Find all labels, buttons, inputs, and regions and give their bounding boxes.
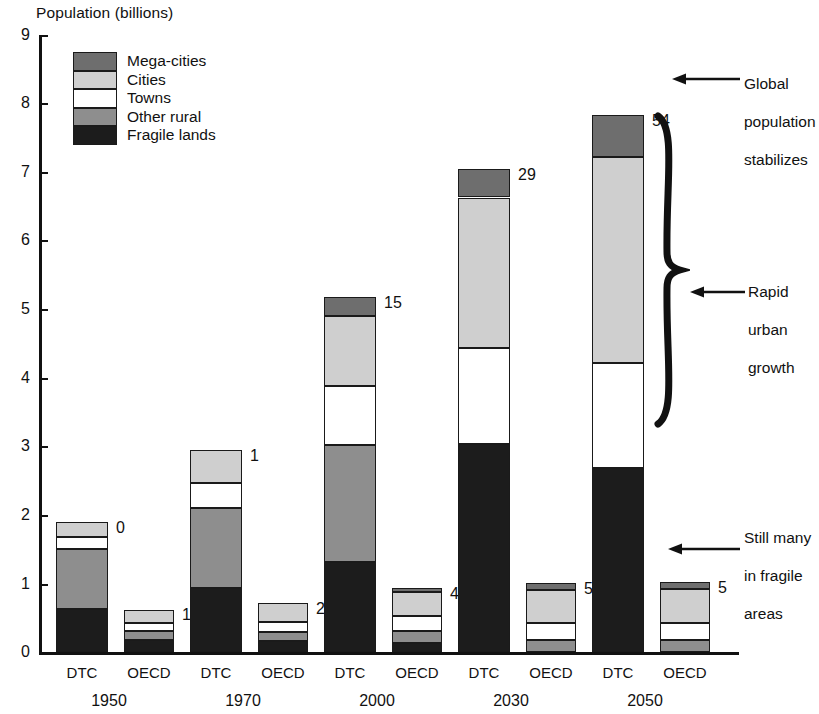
annotation-global-population-stabilizes: Global population stabilizes (744, 55, 816, 188)
annotation-line-3: growth (748, 358, 795, 377)
bar-segment-mega-cities-oecd-2000[interactable] (392, 588, 442, 593)
bar-segment-other-rural-oecd-1970[interactable] (258, 632, 308, 641)
x-label-dtc-1970: DTC (185, 665, 247, 680)
x-label-oecd-1970: OECD (248, 665, 318, 680)
bar-segment-cities-dtc-1950[interactable] (56, 522, 108, 537)
bar-segment-other-rural-dtc-2000[interactable] (324, 445, 376, 562)
arrow-still-many-in-fragile-areas (668, 542, 740, 556)
y-tick-2 (39, 515, 48, 517)
bar-value-oecd-2050: 5 (718, 580, 727, 596)
y-tick-label-1: 1 (0, 576, 30, 592)
bar-segment-cities-oecd-1950[interactable] (124, 610, 174, 624)
annotation-line-2: urban (748, 320, 795, 339)
y-tick-0 (39, 652, 48, 654)
y-tick-6 (39, 240, 48, 242)
bar-segment-fragile-lands-dtc-2030[interactable] (458, 444, 510, 652)
annotation-still-many-in-fragile-areas: Still many in fragile areas (744, 509, 811, 642)
bar-segment-cities-oecd-1970[interactable] (258, 603, 308, 622)
bar-segment-mega-cities-oecd-2030[interactable] (526, 583, 576, 589)
y-tick-8 (39, 103, 48, 105)
bar-segment-other-rural-oecd-2000[interactable] (392, 631, 442, 643)
y-tick-5 (39, 309, 48, 311)
x-group-year-2050: 2050 (600, 693, 690, 709)
bar-segment-towns-oecd-1970[interactable] (258, 622, 308, 632)
y-tick-1 (39, 584, 48, 586)
bar-dtc-1970[interactable] (190, 35, 242, 652)
y-tick-label-3: 3 (0, 438, 30, 454)
y-tick-label-0: 0 (0, 644, 30, 660)
y-tick-7 (39, 172, 48, 174)
annotation-line-1: Global (744, 74, 816, 93)
annotation-line-1: Still many (744, 528, 811, 547)
bar-segment-towns-dtc-1970[interactable] (190, 483, 242, 508)
annotation-line-2: in fragile (744, 566, 811, 585)
x-label-oecd-1950: OECD (114, 665, 184, 680)
y-tick-3 (39, 446, 48, 448)
bar-segment-fragile-lands-oecd-1950[interactable] (124, 640, 174, 652)
bar-segment-towns-dtc-2030[interactable] (458, 348, 510, 444)
y-tick-4 (39, 378, 48, 380)
y-tick-label-2: 2 (0, 507, 30, 523)
bar-segment-towns-dtc-1950[interactable] (56, 537, 108, 549)
curly-brace-rapid-urban-growth (650, 112, 690, 432)
annotation-line-3: stabilizes (744, 150, 816, 169)
bar-segment-towns-oecd-2000[interactable] (392, 616, 442, 631)
x-label-dtc-2050: DTC (587, 665, 649, 680)
bar-segment-other-rural-oecd-2030[interactable] (526, 640, 576, 652)
bar-segment-other-rural-dtc-1950[interactable] (56, 549, 108, 609)
bar-segment-fragile-lands-oecd-1970[interactable] (258, 641, 308, 652)
chart-canvas: Population (billions) 9 8 7 6 5 4 3 2 1 … (0, 0, 819, 714)
bar-oecd-2030[interactable] (526, 35, 576, 652)
bar-segment-mega-cities-oecd-2050[interactable] (660, 582, 710, 589)
arrow-global-population-stabilizes (672, 72, 740, 86)
arrow-rapid-urban-growth (690, 285, 745, 299)
bar-segment-cities-oecd-2050[interactable] (660, 589, 710, 623)
bar-segment-towns-dtc-2050[interactable] (592, 363, 644, 469)
bar-dtc-2050[interactable] (592, 35, 644, 652)
bar-segment-cities-dtc-2000[interactable] (324, 316, 376, 386)
y-tick-label-5: 5 (0, 301, 30, 317)
annotation-line-1: Rapid (748, 282, 795, 301)
bar-segment-mega-cities-dtc-2000[interactable] (324, 297, 376, 316)
bar-segment-other-rural-dtc-1970[interactable] (190, 508, 242, 588)
bar-segment-cities-oecd-2000[interactable] (392, 592, 442, 616)
bar-dtc-2030[interactable] (458, 35, 510, 652)
bar-segment-towns-oecd-1950[interactable] (124, 623, 174, 631)
bar-segment-towns-oecd-2030[interactable] (526, 623, 576, 640)
annotation-line-2: population (744, 112, 816, 131)
x-label-dtc-1950: DTC (51, 665, 113, 680)
bar-segment-cities-dtc-2030[interactable] (458, 198, 510, 349)
x-group-year-2030: 2030 (466, 693, 556, 709)
bar-segment-mega-cities-dtc-2050[interactable] (592, 115, 644, 157)
bar-segment-fragile-lands-oecd-2000[interactable] (392, 643, 442, 652)
bar-oecd-1950[interactable] (124, 35, 174, 652)
bar-segment-towns-oecd-2050[interactable] (660, 623, 710, 640)
y-tick-9 (39, 35, 48, 37)
x-group-year-1950: 1950 (64, 693, 154, 709)
bar-segment-cities-dtc-1970[interactable] (190, 450, 242, 483)
bar-segment-towns-dtc-2000[interactable] (324, 386, 376, 445)
x-axis-line (39, 652, 739, 655)
bar-segment-fragile-lands-dtc-1970[interactable] (190, 588, 242, 652)
bar-dtc-2000[interactable] (324, 35, 376, 652)
bar-segment-other-rural-oecd-2050[interactable] (660, 640, 710, 652)
x-group-year-2000: 2000 (332, 693, 422, 709)
x-label-oecd-2050: OECD (650, 665, 720, 680)
x-label-oecd-2030: OECD (516, 665, 586, 680)
bar-segment-other-rural-oecd-1950[interactable] (124, 631, 174, 640)
bar-oecd-2000[interactable] (392, 35, 442, 652)
bar-segment-cities-oecd-2030[interactable] (526, 590, 576, 624)
bar-oecd-1970[interactable] (258, 35, 308, 652)
y-tick-label-6: 6 (0, 232, 30, 248)
bar-dtc-1950[interactable] (56, 35, 108, 652)
bar-segment-fragile-lands-dtc-2000[interactable] (324, 562, 376, 652)
y-tick-label-7: 7 (0, 164, 30, 180)
x-label-dtc-2030: DTC (453, 665, 515, 680)
y-tick-label-9: 9 (0, 27, 30, 43)
bar-segment-cities-dtc-2050[interactable] (592, 157, 644, 363)
annotation-line-3: areas (744, 604, 811, 623)
x-label-dtc-2000: DTC (319, 665, 381, 680)
bar-segment-fragile-lands-dtc-1950[interactable] (56, 609, 108, 652)
bar-segment-fragile-lands-dtc-2050[interactable] (592, 468, 644, 652)
bar-segment-mega-cities-dtc-2030[interactable] (458, 169, 510, 198)
